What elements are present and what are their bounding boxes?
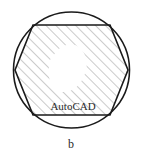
hexagon-hatch-fill [0,0,143,159]
figure-caption: b [68,137,74,151]
figure-container: AutoCAD b [0,0,143,159]
autocad-text-label: AutoCAD [50,100,95,112]
autocad-figure-svg: AutoCAD b [0,0,143,159]
